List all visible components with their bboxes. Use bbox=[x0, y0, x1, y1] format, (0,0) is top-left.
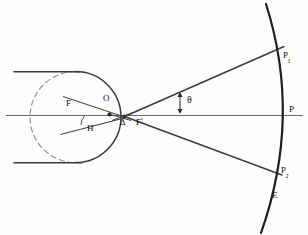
lens-circle-dashed-arc bbox=[30, 72, 75, 163]
label-P1-subscript: 1 bbox=[288, 58, 291, 64]
label-focal-point-F-prime: F' bbox=[136, 118, 143, 127]
label-image-surface-E: E bbox=[272, 191, 278, 200]
label-image-point-P: P bbox=[289, 105, 294, 114]
construction-line-F-upper bbox=[63, 97, 126, 118]
label-image-point-P1: P1 bbox=[283, 51, 291, 62]
refracted-ray-to-P2 bbox=[125, 117, 283, 176]
angle-arc-at-H bbox=[81, 116, 85, 125]
label-image-point-P2: P2 bbox=[281, 166, 289, 177]
label-P2-subscript: 2 bbox=[286, 173, 289, 179]
refracted-ray-to-P1 bbox=[125, 47, 285, 117]
label-principal-point-H: H bbox=[87, 124, 94, 133]
optics-diagram-figure: F O H Δ F' θ P1 P P2 E bbox=[0, 0, 308, 235]
label-vertex-delta: Δ bbox=[120, 118, 125, 127]
theta-angle-marker bbox=[177, 92, 182, 114]
label-F-prime-mark: ' bbox=[141, 116, 143, 126]
label-focal-point-F: F bbox=[66, 99, 71, 108]
lens-circle-solid-arc bbox=[76, 72, 122, 163]
diagram-canvas bbox=[0, 0, 308, 235]
label-angle-theta: θ bbox=[187, 95, 192, 105]
label-optical-center-O: O bbox=[103, 94, 110, 103]
